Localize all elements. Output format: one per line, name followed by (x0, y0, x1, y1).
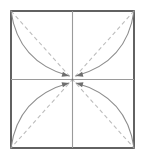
fold-diagram (0, 0, 145, 160)
center-target (72, 79, 73, 80)
fold-diagram-container (0, 0, 145, 160)
